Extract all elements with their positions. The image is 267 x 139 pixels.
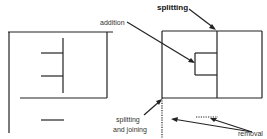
left-figure bbox=[8, 32, 113, 133]
annotation-arrows bbox=[127, 9, 252, 132]
addition-arrow bbox=[127, 22, 193, 62]
label-removal: removal bbox=[238, 130, 263, 138]
addition-arrowhead-icon bbox=[188, 58, 195, 63]
label-addition: addition bbox=[100, 19, 125, 27]
removal-arrowhead-left-icon bbox=[171, 117, 178, 122]
label-splitting-joining-1: splitting bbox=[116, 116, 140, 124]
splitting-arrow bbox=[189, 9, 214, 28]
arrowheads bbox=[156, 24, 217, 122]
label-splitting-joining-2: and joining bbox=[113, 126, 147, 134]
label-splitting: splitting bbox=[157, 4, 188, 12]
